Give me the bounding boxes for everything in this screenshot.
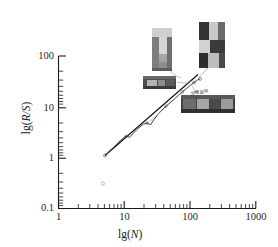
- inset-region: [159, 54, 167, 62]
- inset-region: [152, 68, 172, 71]
- inset-region: [219, 53, 225, 68]
- core-photo-strip-left: [143, 76, 176, 89]
- inset-region: [143, 76, 176, 79]
- inset-region: [183, 99, 196, 109]
- inset-region: [210, 40, 225, 53]
- rs-data-curve: [105, 79, 200, 156]
- outlier-data-point: [101, 182, 104, 185]
- x-axis-title-prefix: lg(: [118, 228, 131, 240]
- inset-region: [218, 22, 225, 40]
- inset-region: [181, 109, 235, 113]
- x-tick-label-100: 100: [177, 211, 203, 222]
- x-axis-title-suffix: ): [138, 228, 142, 240]
- rs-data-markers: [104, 77, 202, 157]
- x-tick-label-1: 1: [48, 211, 69, 222]
- y-axis-title-suffix: ): [20, 102, 32, 106]
- inset-region: [152, 28, 172, 37]
- y-axis-title-var: R/S: [20, 106, 32, 122]
- core-photo-vertical-left: [152, 28, 172, 71]
- inset-region: [199, 22, 209, 40]
- inset-region: [152, 37, 159, 71]
- x-major-ticks: [59, 201, 256, 209]
- x-tick-label-1000: 1000: [241, 211, 271, 222]
- y-axis-title-prefix: lg(: [20, 122, 32, 135]
- inset-region: [197, 99, 209, 109]
- y-tick-label-100: 100: [28, 50, 54, 61]
- inset-region: [208, 53, 219, 68]
- inset-region: [199, 40, 210, 53]
- y-major-ticks: [59, 56, 67, 209]
- core-photo-vertical-right: [199, 22, 225, 68]
- x-minor-ticks: [78, 204, 252, 209]
- inset-region: [221, 99, 233, 109]
- core-photo-strip-bottom: [181, 95, 235, 113]
- inset-region: [209, 22, 218, 40]
- inset-region: [210, 99, 220, 109]
- x-tick-label-10: 10: [113, 211, 136, 222]
- inset-region: [199, 53, 208, 68]
- inset-region: [167, 37, 172, 71]
- x-axis-title: lg(N): [118, 228, 142, 240]
- y-axis-title: lg(R/S): [20, 76, 32, 160]
- y-minor-ticks: [59, 71, 64, 205]
- inset-region: [143, 86, 176, 89]
- inset-region: [159, 37, 167, 54]
- rs-analysis-figure: 分维区间 100 10 1 0.1 1 10 100 1000 lg(R/S) …: [0, 0, 278, 247]
